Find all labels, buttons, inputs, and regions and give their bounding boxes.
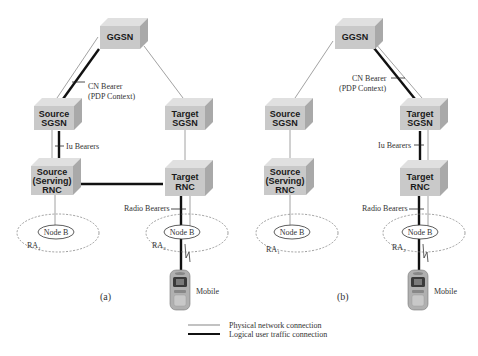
svg-text:RNC: RNC	[42, 185, 62, 195]
target-rnc-node-a: Target RNC	[165, 160, 213, 196]
svg-text:RNC: RNC	[410, 182, 430, 192]
legend-physical-label: Physical network connection	[229, 321, 321, 330]
panel-label-b: (b)	[337, 291, 349, 303]
cn-bearer-label-a: CN Bearer	[88, 82, 123, 91]
svg-text:Node B: Node B	[280, 228, 305, 237]
svg-text:Node B: Node B	[170, 228, 195, 237]
ra1-label-b: RA1	[266, 245, 280, 255]
svg-text:RNC: RNC	[275, 185, 295, 195]
svg-text:Target: Target	[407, 172, 434, 182]
mobile-phone-icon-b	[408, 270, 428, 310]
source-sgsn-node-b: Source SGSN	[265, 98, 313, 130]
panel-a: GGSN Source SGSN Target SGSN Source (Ser…	[17, 18, 228, 310]
radio-bearers-label-b: Radio Bearers	[362, 204, 408, 213]
source-rnc-node-b: Source (Serving) RNC	[264, 158, 314, 195]
mobile-phone-icon-a	[170, 270, 190, 310]
physical-links-b	[290, 41, 428, 226]
svg-text:GGSN: GGSN	[342, 32, 369, 42]
svg-text:SGSN: SGSN	[41, 118, 67, 128]
radio-bearers-label-a: Radio Bearers	[124, 204, 170, 213]
ra2-label-a: RA2	[152, 241, 166, 251]
cn-bearer-label-b: CN Bearer	[352, 74, 387, 83]
ggsn-node-b: GGSN	[335, 18, 383, 49]
svg-text:RNC: RNC	[175, 182, 195, 192]
legend: Physical network connection Logical user…	[188, 321, 327, 339]
ggsn-node-a: GGSN	[100, 18, 148, 49]
svg-text:SGSN: SGSN	[272, 118, 298, 128]
svg-text:Node B: Node B	[408, 228, 433, 237]
mobile-label-b: Mobile	[434, 287, 458, 296]
radio-signal-icon	[185, 244, 190, 262]
ra1-label-a: RA1	[27, 241, 41, 251]
pdp-context-label-b: (PDP Context)	[339, 84, 386, 93]
pdp-context-label-a: (PDP Context)	[88, 92, 135, 101]
svg-text:GGSN: GGSN	[107, 32, 134, 42]
svg-text:SGSN: SGSN	[172, 118, 198, 128]
ra2-label-b: RA2	[392, 243, 406, 253]
source-sgsn-node-a: Source SGSN	[34, 98, 82, 130]
iu-bearers-label-b: Iu Bearers	[378, 141, 411, 150]
legend-logical-label: Logical user traffic connection	[229, 330, 327, 339]
target-rnc-node-b: Target RNC	[400, 160, 448, 196]
svg-text:Target: Target	[172, 172, 199, 182]
mobile-label-a: Mobile	[196, 287, 220, 296]
radio-signal-icon	[423, 244, 428, 262]
target-sgsn-node-b: Target SGSN	[400, 98, 448, 130]
physical-links-a	[52, 37, 190, 226]
handover-diagram: GGSN Source SGSN Target SGSN Source (Ser…	[0, 0, 478, 356]
panel-b: GGSN Source SGSN Target SGSN Source (Ser…	[256, 18, 465, 310]
target-sgsn-node-a: Target SGSN	[165, 98, 213, 130]
iu-bearers-label-a: Iu Bearers	[66, 142, 99, 151]
panel-label-a: (a)	[100, 291, 111, 303]
svg-text:Node B: Node B	[44, 228, 69, 237]
svg-text:SGSN: SGSN	[407, 118, 433, 128]
source-rnc-node-a: Source (Serving) RNC	[31, 158, 81, 195]
